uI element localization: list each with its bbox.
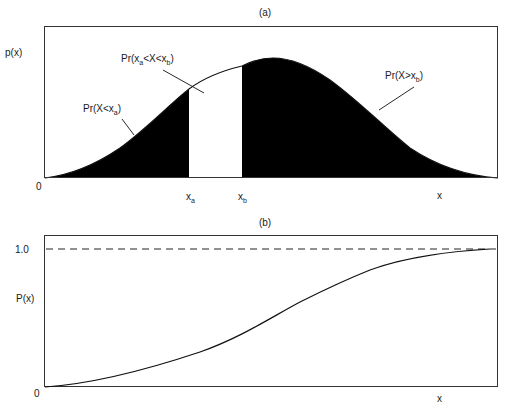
xa-tick-label: xa (186, 191, 195, 204)
pdf-y-label: p(x) (5, 47, 22, 58)
leader-mid (163, 70, 204, 93)
region-right-fill (242, 58, 498, 178)
cdf-y-tick-one: 1.0 (15, 244, 29, 255)
leader-left (122, 119, 134, 135)
cdf-y-tick-zero: 0 (34, 388, 40, 399)
cdf-plot: 1.0 P(x) 0 x (15, 236, 498, 405)
label-pr-right: Pr(X>xb) (385, 70, 423, 83)
cdf-frame (45, 236, 498, 387)
pdf-origin-label: 0 (36, 181, 42, 192)
pdf-x-label: x (437, 190, 442, 201)
panel-b-title: (b) (259, 217, 271, 228)
cdf-curve (45, 249, 490, 387)
label-pr-mid: Pr(xa<X<xb) (121, 53, 174, 66)
figure: (a) Pr(X<xa) Pr(xa<X<xb) Pr(X>xb) p(x) 0… (0, 0, 516, 415)
panel-a-title: (a) (259, 7, 271, 18)
cdf-x-label: x (437, 393, 442, 404)
pdf-plot: Pr(X<xa) Pr(xa<X<xb) Pr(X>xb) p(x) 0 xa … (5, 27, 498, 205)
xb-tick-label: xb (238, 191, 247, 204)
label-pr-left: Pr(X<xa) (83, 103, 121, 116)
leader-right (379, 87, 414, 110)
cdf-y-label: P(x) (16, 293, 34, 304)
